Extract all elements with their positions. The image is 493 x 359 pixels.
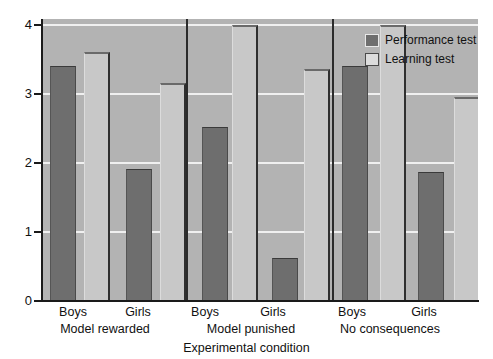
group-label-model-rewarded: Model rewarded: [40, 322, 170, 336]
x-axis-title: Experimental condition: [0, 341, 493, 355]
y-axis-label-2: 2: [2, 156, 32, 169]
group-separator-2: [332, 19, 334, 300]
legend-item-learning-test: Learning test: [365, 50, 473, 69]
x-tick-label-boys-rewarded: Boys: [43, 305, 103, 319]
y-axis-label-0: 0: [2, 294, 32, 307]
legend-swatch-learning-icon: [365, 53, 379, 66]
x-tick-label-girls-rewarded: Girls: [108, 305, 168, 319]
bar-performance-no-consequences-boys: [342, 66, 368, 300]
legend-label-learning-test: Learning test: [385, 53, 454, 66]
y-tick-1: [34, 231, 42, 233]
y-tick-3: [34, 93, 42, 95]
y-tick-label-wrap-1: 1: [0, 225, 32, 238]
legend-swatch-performance-icon: [365, 34, 379, 47]
y-tick-4: [34, 24, 42, 26]
group-separator-1: [186, 19, 188, 300]
x-tick-label-girls-punished: Girls: [243, 305, 303, 319]
bar-performance-model-rewarded-girls: [126, 169, 152, 300]
bar-performance-model-punished-girls: [272, 258, 298, 300]
y-axis-label-3: 3: [2, 87, 32, 100]
group-label-no-consequences: No consequences: [325, 322, 455, 336]
bar-learning-model-punished-girls: [304, 69, 330, 300]
x-tick-label-boys-noconsequences: Boys: [322, 305, 382, 319]
y-tick-label-wrap-4: 4: [0, 18, 32, 31]
bar-learning-model-rewarded-girls: [160, 83, 186, 300]
group-label-model-punished: Model punished: [186, 322, 316, 336]
y-tick-label-wrap-0: 0: [0, 294, 32, 307]
y-tick-label-wrap-3: 3: [0, 87, 32, 100]
bar-performance-model-rewarded-boys: [50, 66, 76, 300]
y-axis-label-4: 4: [2, 18, 32, 31]
y-axis-label-1: 1: [2, 225, 32, 238]
x-axis-line: [41, 300, 479, 302]
y-tick-label-wrap-2: 2: [0, 156, 32, 169]
y-tick-0: [34, 300, 42, 302]
y-tick-2: [34, 162, 42, 164]
x-tick-label-girls-noconsequences: Girls: [394, 305, 454, 319]
bar-chart-figure: 4 3 2 1 0 Boys Girls Boys Girls Boys Gir…: [0, 0, 493, 359]
bar-learning-model-rewarded-boys: [84, 52, 110, 300]
gridline-y4: [42, 24, 478, 26]
legend-item-performance-test: Performance test: [365, 31, 473, 50]
bar-performance-model-punished-boys: [202, 127, 228, 300]
bar-learning-model-punished-boys: [232, 25, 258, 300]
chart-legend: Performance test Learning test: [361, 28, 475, 73]
x-tick-label-boys-punished: Boys: [175, 305, 235, 319]
bar-learning-no-consequences-girls: [454, 97, 478, 300]
y-axis-line: [41, 19, 43, 302]
legend-label-performance-test: Performance test: [385, 34, 476, 47]
bar-performance-no-consequences-girls: [418, 172, 444, 300]
